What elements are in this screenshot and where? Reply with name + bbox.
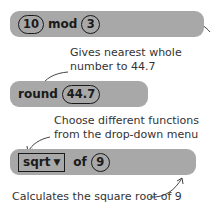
mod-operator: mod bbox=[48, 17, 77, 31]
sqrt-note: Calculates the square root of 9 bbox=[12, 190, 182, 204]
sqrt-value-input[interactable]: 9 bbox=[91, 153, 110, 172]
round-operator: round bbox=[18, 87, 58, 101]
mod-left-input[interactable]: 10 bbox=[18, 15, 44, 34]
round-block[interactable]: round 44.7 bbox=[10, 81, 148, 107]
sqrt-block[interactable]: sqrt ▼ of 9 bbox=[10, 149, 196, 175]
round-note-line2: number to 44.7 bbox=[70, 60, 182, 74]
mod-right-input[interactable]: 3 bbox=[81, 15, 100, 34]
round-note: Gives nearest whole number to 44.7 bbox=[70, 46, 182, 74]
mod-block[interactable]: 10 mod 3 bbox=[10, 11, 204, 37]
dropdown-note: Choose different functions from the drop… bbox=[54, 114, 199, 142]
of-label: of bbox=[73, 155, 86, 169]
function-dropdown[interactable]: sqrt ▼ bbox=[18, 153, 65, 172]
dropdown-note-line1: Choose different functions bbox=[54, 114, 199, 128]
round-value-input[interactable]: 44.7 bbox=[62, 85, 100, 104]
round-note-line1: Gives nearest whole bbox=[70, 46, 182, 60]
function-dropdown-value: sqrt bbox=[23, 154, 50, 171]
dropdown-note-line2: from the drop-down menu bbox=[54, 128, 199, 142]
caret-down-icon: ▼ bbox=[53, 154, 60, 171]
